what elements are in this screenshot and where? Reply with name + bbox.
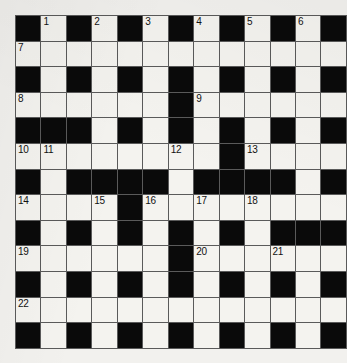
open-cell[interactable]	[321, 92, 347, 118]
open-cell[interactable]	[92, 220, 117, 246]
open-cell[interactable]: 9	[194, 92, 219, 118]
open-cell[interactable]	[245, 323, 270, 349]
open-cell[interactable]	[66, 92, 91, 118]
open-cell[interactable]	[143, 67, 168, 93]
open-cell[interactable]	[321, 246, 347, 272]
open-cell[interactable]	[41, 246, 66, 272]
open-cell[interactable]: 1	[41, 16, 66, 42]
open-cell[interactable]	[66, 297, 91, 323]
open-cell[interactable]	[295, 92, 320, 118]
open-cell[interactable]	[245, 67, 270, 93]
open-cell[interactable]	[245, 271, 270, 297]
open-cell[interactable]	[92, 297, 117, 323]
open-cell[interactable]: 19	[16, 246, 41, 272]
open-cell[interactable]: 8	[16, 92, 41, 118]
open-cell[interactable]	[41, 220, 66, 246]
open-cell[interactable]: 7	[16, 41, 41, 67]
open-cell[interactable]	[295, 271, 320, 297]
open-cell[interactable]	[219, 195, 244, 221]
open-cell[interactable]	[245, 220, 270, 246]
open-cell[interactable]	[117, 297, 142, 323]
open-cell[interactable]	[295, 118, 320, 144]
open-cell[interactable]	[295, 246, 320, 272]
open-cell[interactable]	[168, 41, 193, 67]
open-cell[interactable]: 12	[168, 143, 193, 169]
open-cell[interactable]	[92, 92, 117, 118]
open-cell[interactable]	[143, 246, 168, 272]
open-cell[interactable]	[117, 143, 142, 169]
open-cell[interactable]: 3	[143, 16, 168, 42]
open-cell[interactable]	[41, 297, 66, 323]
open-cell[interactable]	[219, 92, 244, 118]
open-cell[interactable]	[321, 143, 347, 169]
open-cell[interactable]	[321, 195, 347, 221]
open-cell[interactable]	[219, 297, 244, 323]
open-cell[interactable]	[219, 246, 244, 272]
open-cell[interactable]: 16	[143, 195, 168, 221]
open-cell[interactable]	[41, 195, 66, 221]
open-cell[interactable]	[66, 143, 91, 169]
open-cell[interactable]	[41, 92, 66, 118]
open-cell[interactable]	[245, 118, 270, 144]
open-cell[interactable]	[245, 92, 270, 118]
open-cell[interactable]	[41, 323, 66, 349]
open-cell[interactable]	[92, 41, 117, 67]
open-cell[interactable]: 4	[194, 16, 219, 42]
open-cell[interactable]	[143, 271, 168, 297]
open-cell[interactable]	[143, 41, 168, 67]
open-cell[interactable]	[194, 297, 219, 323]
open-cell[interactable]	[295, 41, 320, 67]
open-cell[interactable]: 17	[194, 195, 219, 221]
open-cell[interactable]	[92, 118, 117, 144]
open-cell[interactable]	[194, 143, 219, 169]
open-cell[interactable]: 15	[92, 195, 117, 221]
open-cell[interactable]	[92, 143, 117, 169]
open-cell[interactable]	[92, 323, 117, 349]
open-cell[interactable]: 14	[16, 195, 41, 221]
open-cell[interactable]: 6	[295, 16, 320, 42]
open-cell[interactable]: 22	[16, 297, 41, 323]
open-cell[interactable]	[270, 41, 295, 67]
open-cell[interactable]	[66, 246, 91, 272]
open-cell[interactable]	[194, 220, 219, 246]
open-cell[interactable]	[168, 195, 193, 221]
open-cell[interactable]	[295, 143, 320, 169]
open-cell[interactable]: 18	[245, 195, 270, 221]
open-cell[interactable]	[143, 118, 168, 144]
crossword-grid[interactable]: 12345678910111213141516171819202122	[15, 15, 347, 349]
open-cell[interactable]	[41, 271, 66, 297]
open-cell[interactable]	[168, 297, 193, 323]
open-cell[interactable]	[41, 67, 66, 93]
open-cell[interactable]	[66, 41, 91, 67]
open-cell[interactable]	[194, 118, 219, 144]
open-cell[interactable]: 11	[41, 143, 66, 169]
open-cell[interactable]	[219, 41, 244, 67]
open-cell[interactable]	[143, 92, 168, 118]
open-cell[interactable]	[117, 41, 142, 67]
open-cell[interactable]	[321, 297, 347, 323]
open-cell[interactable]	[117, 92, 142, 118]
open-cell[interactable]	[245, 297, 270, 323]
open-cell[interactable]	[194, 271, 219, 297]
open-cell[interactable]	[270, 297, 295, 323]
open-cell[interactable]	[245, 41, 270, 67]
open-cell[interactable]: 13	[245, 143, 270, 169]
open-cell[interactable]	[41, 169, 66, 195]
open-cell[interactable]	[143, 297, 168, 323]
open-cell[interactable]	[295, 323, 320, 349]
open-cell[interactable]	[41, 41, 66, 67]
open-cell[interactable]	[143, 143, 168, 169]
open-cell[interactable]	[270, 143, 295, 169]
open-cell[interactable]	[295, 297, 320, 323]
open-cell[interactable]	[92, 67, 117, 93]
open-cell[interactable]	[321, 41, 347, 67]
open-cell[interactable]	[270, 92, 295, 118]
open-cell[interactable]: 5	[245, 16, 270, 42]
open-cell[interactable]	[194, 323, 219, 349]
open-cell[interactable]	[66, 195, 91, 221]
open-cell[interactable]	[295, 67, 320, 93]
open-cell[interactable]	[168, 169, 193, 195]
open-cell[interactable]	[117, 246, 142, 272]
open-cell[interactable]	[92, 271, 117, 297]
open-cell[interactable]	[295, 169, 320, 195]
